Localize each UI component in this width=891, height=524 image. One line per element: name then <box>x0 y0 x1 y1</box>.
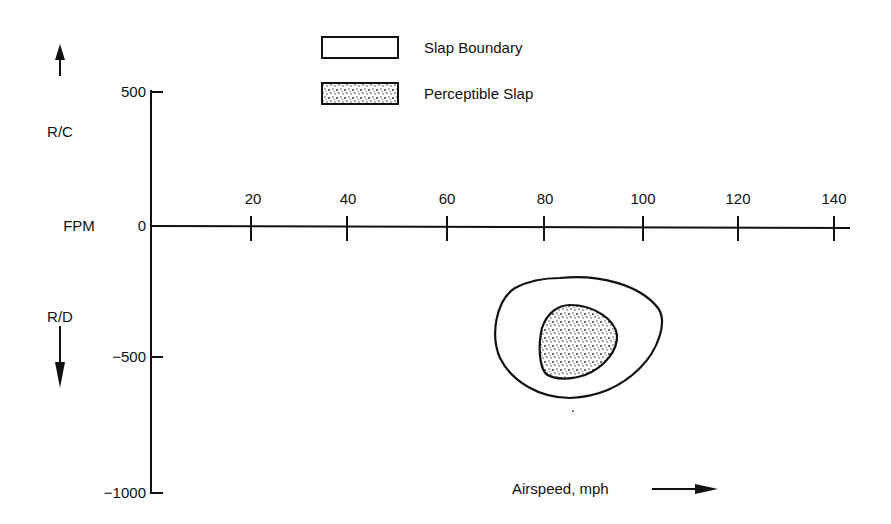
y-positive-label: R/C <box>47 123 73 140</box>
legend-swatch-perceptible-slap <box>322 83 398 104</box>
y-axis-annotations: R/C FPM R/D <box>47 44 95 388</box>
region-perceptible-slap <box>540 305 617 379</box>
x-axis: 20 40 60 80 100 120 140 <box>151 190 850 241</box>
x-axis-label: Airspeed, mph <box>512 480 609 497</box>
x-tick-60: 60 <box>439 190 456 207</box>
y-axis-label: FPM <box>63 217 95 234</box>
x-tick-100: 100 <box>630 190 655 207</box>
y-axis: 500 0 −500 −1000 <box>104 83 163 501</box>
x-tick-20: 20 <box>245 190 262 207</box>
x-tick-140: 140 <box>821 190 846 207</box>
x-axis-annotation: Airspeed, mph <box>512 480 718 497</box>
legend-swatch-slap-boundary <box>322 37 398 58</box>
y-negative-label: R/D <box>47 308 73 325</box>
legend: Slap Boundary Perceptible Slap <box>322 37 533 104</box>
y-tick-neg1000: −1000 <box>104 484 146 501</box>
stray-dot <box>572 410 574 412</box>
legend-label-slap-boundary: Slap Boundary <box>424 39 523 56</box>
y-tick-0: 0 <box>138 217 146 234</box>
x-tick-120: 120 <box>725 190 750 207</box>
chart-canvas: Slap Boundary Perceptible Slap 500 0 −50… <box>0 0 891 524</box>
y-tick-500: 500 <box>121 83 146 100</box>
legend-label-perceptible-slap: Perceptible Slap <box>424 85 533 102</box>
x-tick-40: 40 <box>340 190 357 207</box>
y-tick-neg500: −500 <box>112 348 146 365</box>
x-tick-80: 80 <box>537 190 554 207</box>
